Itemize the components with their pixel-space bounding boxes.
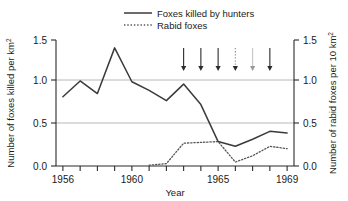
arrow-head xyxy=(267,66,272,71)
series-line-foxes-killed xyxy=(63,48,287,146)
arrow-1967 xyxy=(250,48,255,71)
axes-frame xyxy=(56,40,294,166)
y-axis-left-ticks: 1.5 1.0 0.5 0.0 xyxy=(33,35,56,172)
arrow-1965 xyxy=(216,48,221,71)
ytick-label-left-3: 1.5 xyxy=(33,35,47,46)
arrow-1966 xyxy=(233,48,238,71)
ytick-label-right-1: 0.5 xyxy=(303,118,317,129)
arrow-annotations xyxy=(181,48,272,71)
ytick-label-right-3: 1.5 xyxy=(303,35,317,46)
legend-label-1: Rabid foxes xyxy=(157,20,207,31)
arrow-head xyxy=(250,66,255,71)
y-axis-right-ticks: 1.5 1.0 0.5 0.0 xyxy=(294,35,317,172)
x-axis-ticks xyxy=(63,166,287,171)
fox-population-chart: 1.5 1.0 0.5 0.0 1.5 1.0 0.5 0.0 19561960… xyxy=(0,0,348,201)
arrow-1964 xyxy=(198,48,203,71)
arrow-head xyxy=(198,66,203,71)
ytick-label-left-2: 1.0 xyxy=(33,75,47,86)
gridlines xyxy=(56,80,294,123)
xtick-label-0: 1956 xyxy=(52,174,75,185)
ytick-label-right-0: 0.0 xyxy=(303,161,317,172)
chart-canvas: 1.5 1.0 0.5 0.0 1.5 1.0 0.5 0.0 19561960… xyxy=(0,0,348,201)
xtick-label-3: 1969 xyxy=(276,174,299,185)
data-series-layer xyxy=(63,48,287,165)
x-axis-title: Year xyxy=(165,187,184,198)
series-line-rabid-foxes xyxy=(149,142,287,166)
ytick-label-left-0: 0.0 xyxy=(33,161,47,172)
xtick-label-2: 1965 xyxy=(207,174,230,185)
ytick-label-left-1: 0.5 xyxy=(33,118,47,129)
arrow-head xyxy=(233,66,238,71)
arrow-head xyxy=(216,66,221,71)
y-axis-left-title: Number of foxes killed per km2 xyxy=(5,38,16,168)
arrow-1968 xyxy=(267,48,272,71)
xtick-label-1: 1960 xyxy=(121,174,144,185)
y-axis-right-title: Number of rabid foxes per 10 km2 xyxy=(327,32,338,174)
arrow-head xyxy=(181,66,186,71)
chart-legend: Foxes killed by hunters Rabid foxes xyxy=(124,8,254,31)
ytick-label-right-2: 1.0 xyxy=(303,75,317,86)
legend-label-0: Foxes killed by hunters xyxy=(157,8,254,19)
x-axis-tick-labels: 1956196019651969 xyxy=(52,174,299,185)
arrow-1963 xyxy=(181,48,186,71)
